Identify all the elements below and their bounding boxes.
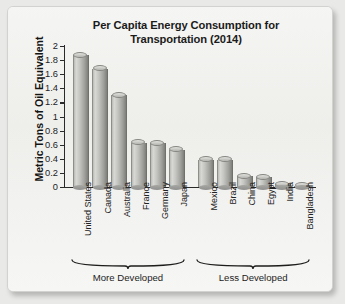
y-tick-label: 0.8 [45,126,58,136]
x-axis-label: Bangladesh [305,182,315,252]
y-tick-label: 1.2 [45,97,58,107]
y-tick-label: 2 [53,41,58,51]
y-tick-mark [60,159,65,160]
y-axis-label: Metric Tons of Oil Equivalent [33,29,45,189]
bar [131,143,147,187]
y-tick-label: 1 [53,112,58,122]
chart-card: Per Capita Energy Consumption for Transp… [7,6,333,292]
y-tick-mark [60,131,65,132]
x-axis-label: Japan [179,182,189,252]
x-axis-label: Mexico [209,182,219,252]
bar-top-cap [237,173,251,179]
x-axis-label: France [141,182,151,252]
x-axis-label: India [285,182,295,252]
x-axis-label: United States [83,182,93,252]
bar-top-cap [112,92,126,98]
y-tick-mark [60,60,65,61]
chart-title-line-1: Per Capita Energy Consumption for [54,18,318,32]
chart-title: Per Capita Energy Consumption for Transp… [54,18,318,46]
group-label: Less Developed [196,272,310,283]
y-tick-label: 0.6 [45,140,58,150]
x-axis-label: Canada [103,182,113,252]
x-axis-labels: United StatesCanadaAustraliaFranceGerman… [64,190,316,252]
group-label: More Developed [71,272,185,283]
group-brace [71,259,185,270]
bar-top-cap [150,140,164,146]
bar-top-cap [218,156,232,162]
y-tick-mark [60,102,65,103]
x-axis-label: China [247,182,257,252]
group-labels: More DevelopedLess Developed [64,272,316,288]
chart-title-line-2: Transportation (2014) [54,32,318,46]
bar-top-cap [73,52,87,58]
plot-area: 00.20.40.60.811.21.41.61.82 [64,45,316,188]
y-tick-label: 1.4 [45,83,58,93]
bar [92,69,108,187]
chart-screenshot: Per Capita Energy Consumption for Transp… [0,0,345,304]
y-tick-label: 0.2 [45,168,58,178]
bar [111,95,127,187]
y-tick-label: 1.6 [45,69,58,79]
y-tick-mark [60,74,65,75]
y-tick-mark [60,173,65,174]
bar [150,143,166,187]
group-braces [64,259,316,271]
bar-top-cap [256,174,270,180]
y-tick-mark [60,187,65,188]
group-brace [196,259,310,270]
bar-top-cap [199,156,213,162]
y-tick-label: 1.8 [45,55,58,65]
y-tick-label: 0 [53,182,58,192]
y-tick-label: 0.4 [45,154,58,164]
bar-top-cap [169,146,183,152]
x-axis-label: Egypt [266,182,276,252]
y-tick-mark [60,117,65,118]
x-axis-label: Germany [160,182,170,252]
bar [73,55,89,187]
x-axis-label: Australia [122,182,132,252]
y-tick-mark [60,46,65,47]
x-axis-label: Brazil [228,182,238,252]
bar-top-cap [93,65,107,71]
y-tick-mark [60,145,65,146]
bar-top-cap [131,139,145,145]
y-tick-mark [60,88,65,89]
